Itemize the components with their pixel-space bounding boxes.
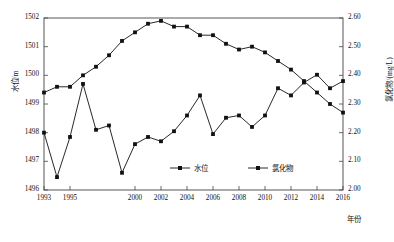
data-point-marker — [94, 65, 98, 69]
legend-marker-0 — [178, 166, 182, 170]
data-point-marker — [250, 45, 254, 49]
data-point-marker — [250, 125, 254, 129]
data-point-marker — [289, 94, 293, 98]
data-point-marker — [133, 30, 137, 34]
data-point-marker — [42, 91, 46, 95]
data-point-marker — [289, 68, 293, 72]
data-point-marker — [315, 91, 319, 95]
data-point-marker — [328, 102, 332, 106]
series-line-0 — [44, 75, 343, 177]
data-point-marker — [107, 124, 111, 128]
data-point-marker — [198, 94, 202, 98]
data-point-marker — [172, 129, 176, 133]
data-point-marker — [276, 86, 280, 90]
data-point-marker — [302, 79, 306, 83]
data-point-marker — [107, 53, 111, 57]
data-point-marker — [81, 82, 85, 86]
data-point-marker — [341, 79, 345, 83]
data-point-marker — [185, 114, 189, 118]
data-point-marker — [263, 114, 267, 118]
data-point-marker — [224, 42, 228, 46]
data-point-marker — [159, 19, 163, 23]
data-point-marker — [133, 142, 137, 146]
data-point-marker — [328, 86, 332, 90]
data-point-marker — [55, 175, 59, 179]
data-point-marker — [263, 51, 267, 55]
data-point-marker — [185, 25, 189, 29]
data-point-marker — [224, 116, 228, 120]
data-point-marker — [159, 139, 163, 143]
data-point-marker — [172, 25, 176, 29]
data-point-marker — [94, 128, 98, 132]
data-point-marker — [68, 85, 72, 89]
data-point-marker — [198, 33, 202, 37]
data-point-marker — [146, 135, 150, 139]
data-point-marker — [315, 73, 319, 77]
data-point-marker — [68, 135, 72, 139]
data-point-marker — [237, 114, 241, 118]
data-point-marker — [146, 22, 150, 26]
data-point-marker — [237, 48, 241, 52]
data-point-marker — [81, 73, 85, 77]
data-point-marker — [120, 171, 124, 175]
data-point-marker — [276, 59, 280, 63]
data-point-marker — [120, 39, 124, 43]
data-point-marker — [211, 33, 215, 37]
data-point-marker — [55, 85, 59, 89]
legend-marker-1 — [256, 166, 260, 170]
data-point-marker — [211, 132, 215, 136]
series-line-1 — [44, 21, 343, 113]
data-point-marker — [42, 131, 46, 135]
data-point-marker — [341, 111, 345, 115]
